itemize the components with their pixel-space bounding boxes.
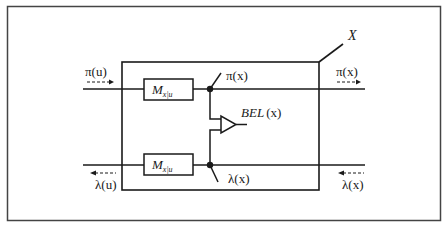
lambda-x-inner-label: λ(x) <box>228 171 249 186</box>
belief-label: BEL(x) <box>241 105 281 120</box>
matrix-box-top: Mx|u <box>144 79 193 100</box>
node-connector-line <box>319 44 343 62</box>
pi-u-label: π(u) <box>85 64 107 79</box>
junction-slash-top <box>210 73 221 89</box>
pi-x-inner-label: π(x) <box>226 68 248 83</box>
combiner-triangle-icon <box>221 116 236 133</box>
pi-x-outer-label: π(x) <box>336 64 358 79</box>
node-label-x: X <box>347 28 357 43</box>
lambda-x-outer-label: λ(x) <box>342 177 363 192</box>
node-diagram: X Mx|u Mx|u π(x) λ(x) BEL(x) π(u) λ(u) <box>0 0 446 228</box>
belief-combiner <box>210 89 247 165</box>
matrix-box-bottom: Mx|u <box>144 154 193 175</box>
outer-frame <box>8 7 441 221</box>
junction-slash-bottom <box>210 165 218 182</box>
lambda-u-arrow-icon <box>90 171 116 176</box>
pi-x-arrow-icon <box>337 80 361 85</box>
lambda-x-arrow-icon <box>338 171 364 176</box>
pi-u-arrow-icon <box>87 80 114 85</box>
lambda-u-label: λ(u) <box>95 177 116 192</box>
